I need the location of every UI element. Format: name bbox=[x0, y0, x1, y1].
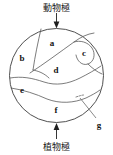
animal-pole-arrow-icon bbox=[54, 13, 60, 29]
region-label-d: d bbox=[51, 66, 61, 75]
figure-root: 動物極 植物極 a b c d e f g bbox=[0, 0, 113, 155]
vegetal-pole-label: 植物極 bbox=[0, 140, 113, 153]
region-label-f: f bbox=[51, 106, 61, 115]
region-label-a: a bbox=[47, 39, 57, 48]
boundary-g-band bbox=[76, 95, 84, 97]
region-label-b: b bbox=[17, 54, 27, 63]
diagram-canvas bbox=[0, 0, 113, 155]
region-label-c: c bbox=[79, 49, 89, 58]
region-label-e: e bbox=[17, 86, 27, 95]
boundary-b-e-d bbox=[33, 70, 49, 78]
vegetal-pole-arrow-icon bbox=[54, 123, 60, 139]
region-label-g: g bbox=[94, 121, 104, 130]
animal-pole-label: 動物極 bbox=[0, 1, 113, 14]
boundary-b-a bbox=[33, 29, 41, 70]
